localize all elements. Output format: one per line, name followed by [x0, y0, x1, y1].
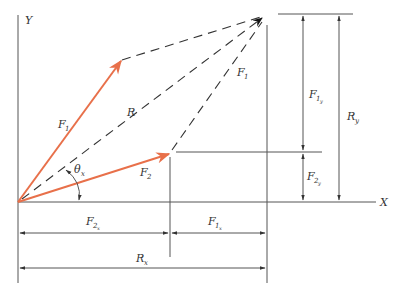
- y-axis: Y: [18, 14, 34, 283]
- svg-text:x: x: [97, 225, 100, 231]
- svg-text:x: x: [144, 259, 148, 267]
- dimension-ry: R y: [339, 16, 360, 200]
- svg-text:x: x: [81, 170, 85, 178]
- svg-text:R: R: [346, 110, 355, 123]
- svg-text:y: y: [317, 180, 321, 187]
- svg-text:θ: θ: [74, 163, 81, 176]
- y-axis-label: Y: [25, 14, 34, 27]
- x-axis-label: X: [379, 196, 389, 209]
- svg-text:y: y: [319, 98, 323, 105]
- dimension-f2y: F 2 y: [303, 154, 321, 200]
- dimension-f1y: F 1 y: [303, 16, 323, 150]
- svg-text:1: 1: [244, 73, 248, 81]
- vector-addition-diagram: Y X F 1 F 2 R F 1 θ x: [0, 0, 407, 291]
- svg-text:R: R: [135, 252, 144, 265]
- vector-f1: F 1: [18, 61, 121, 202]
- translated-f1-label: F 1: [236, 66, 248, 81]
- x-axis: X: [18, 196, 389, 209]
- dimension-f1x: F 1 x: [172, 215, 265, 233]
- dimension-rx: R x: [20, 252, 265, 268]
- svg-text:x: x: [219, 225, 222, 231]
- svg-text:1: 1: [65, 125, 69, 133]
- svg-text:y: y: [354, 117, 360, 125]
- guide-lines: [170, 14, 353, 283]
- resultant-r-label: R: [126, 106, 135, 119]
- svg-text:R: R: [126, 106, 135, 119]
- dimension-f2x: F 2 x: [20, 215, 168, 233]
- vector-f2: F 2: [18, 154, 169, 202]
- svg-text:2: 2: [146, 173, 152, 181]
